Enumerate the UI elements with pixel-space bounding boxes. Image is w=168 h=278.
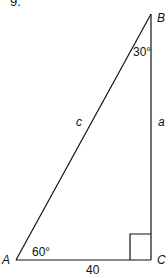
vertex-b-label: B bbox=[157, 12, 165, 24]
hypotenuse-c bbox=[16, 14, 151, 260]
right-angle-marker bbox=[130, 234, 151, 260]
vertex-a-label: A bbox=[2, 254, 10, 266]
angle-a-label: 60° bbox=[32, 246, 50, 258]
vertex-c-label: C bbox=[157, 254, 166, 266]
angle-b-label: 30° bbox=[133, 46, 151, 58]
side-ac-length: 40 bbox=[86, 264, 99, 276]
triangle-figure bbox=[0, 0, 168, 278]
side-a-label: a bbox=[158, 116, 165, 128]
side-c-label: c bbox=[76, 116, 82, 128]
